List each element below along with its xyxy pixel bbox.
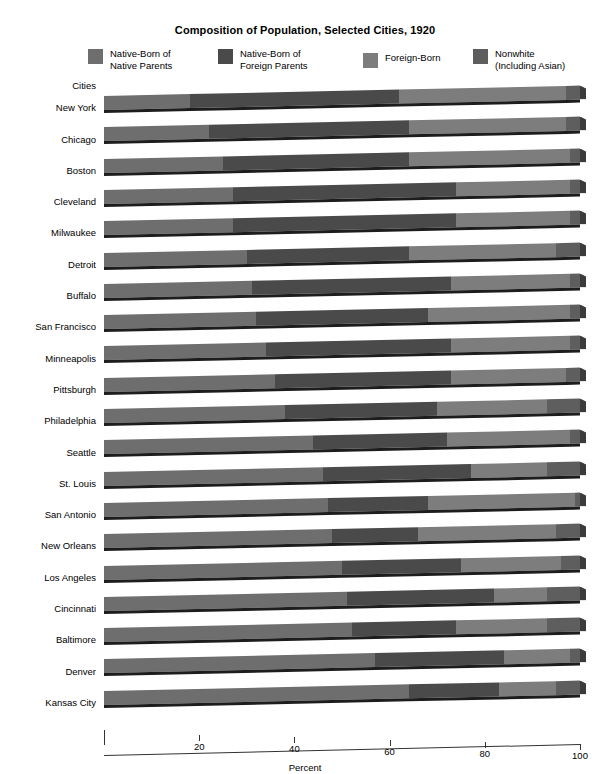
bar-segment[interactable] [494,587,546,602]
bar-segment-shadow [566,100,580,103]
bar-segment-shadow [547,413,580,417]
bar-segment[interactable] [547,586,580,601]
bar-segment-shadow [547,600,580,604]
stacked-bar[interactable] [104,346,584,368]
plot-area: Cities New YorkChicagoBostonClevelandMil… [0,80,610,740]
bar-segment[interactable] [561,555,580,569]
bar-segment[interactable] [547,618,580,633]
bar-category-label: Chicago [0,134,96,146]
bar-segment[interactable] [570,430,580,444]
legend-swatch-icon [218,49,233,64]
bar-category-label: Buffalo [0,290,96,302]
bar-category-label: New Orleans [0,540,96,552]
stacked-bar[interactable] [104,190,584,212]
bar-segment[interactable] [566,86,580,100]
bar-segment-shadow [566,131,580,134]
stacked-bar[interactable] [104,253,584,275]
legend-item-native-born-native-parents: Native-Born of Native Parents [88,48,172,71]
legend-swatch-icon [473,49,488,64]
stacked-bar[interactable] [104,221,584,243]
bar-category-label: Denver [0,666,96,678]
bar-segment-shadow [547,475,580,479]
x-axis-tick-label: 20 [194,741,205,752]
legend-item-label: Native-Born of Native Parents [110,48,172,71]
bar-segment-shadow [556,256,580,260]
x-axis-title: Percent [0,762,610,773]
stacked-bar[interactable] [104,315,584,337]
bar-segment[interactable] [570,148,580,162]
bar-segment[interactable] [556,242,580,257]
bar-category-label: New York [0,102,96,114]
bar-segment-shadow [570,319,580,322]
bar-body [104,86,584,113]
bar-segment[interactable] [570,336,580,350]
bar-segment-shadow [332,541,418,546]
legend-item-label: Native-Born of Foreign Parents [240,48,308,71]
stacked-bar[interactable] [104,96,584,118]
bar-segment-shadow [499,695,556,699]
bar-segment[interactable] [570,305,580,319]
stacked-bar[interactable] [104,472,584,494]
x-axis-tick-label: 40 [289,743,300,754]
stacked-bar[interactable] [104,534,584,556]
stacked-bar[interactable] [104,659,584,681]
bar-segment[interactable] [556,680,580,695]
stacked-bar[interactable] [104,284,584,306]
stacked-bar[interactable] [104,440,584,462]
stacked-bar[interactable] [104,691,584,713]
stacked-bar[interactable] [104,409,584,431]
bar-category-label: Philadelphia [0,415,96,427]
x-axis-line [104,744,580,756]
bar-category-label: Cleveland [0,196,96,208]
bar-segment[interactable] [570,180,580,194]
bar-end-cap [580,85,586,99]
bar-row[interactable]: Kansas City [0,691,610,717]
stacked-bar[interactable] [104,127,584,149]
bar-category-label: San Francisco [0,321,96,333]
bar-segment[interactable] [575,493,580,507]
bar-segment[interactable] [547,399,580,414]
bar-segment-shadow [504,663,571,667]
bar-segment-shadow [104,139,209,144]
bar-segment-shadow [570,287,580,290]
bar-category-label: Seattle [0,447,96,459]
bar-category-label: Cincinnati [0,603,96,615]
bar-segment[interactable] [570,273,580,287]
bar-segment[interactable] [570,211,580,225]
bar-segment[interactable] [499,681,556,696]
stacked-bar[interactable] [104,597,584,619]
bar-segment-shadow [570,444,580,447]
bar-segment[interactable] [566,367,580,381]
legend-swatch-icon [363,53,378,68]
stacked-bar[interactable] [104,566,584,588]
bar-category-label: Los Angeles [0,572,96,584]
bar-segment[interactable] [570,649,580,663]
bar-segment-shadow [570,194,580,197]
x-axis: 20406080100 Percent [0,740,610,774]
bar-segment[interactable] [471,462,547,478]
bar-segment-shadow [547,632,580,636]
bar-segment-shadow [566,381,580,384]
stacked-bar[interactable] [104,628,584,650]
bar-category-label: Pittsburgh [0,384,96,396]
bar-segment-shadow [494,601,546,605]
y-axis-title: Cities [0,80,96,91]
stacked-bar[interactable] [104,159,584,181]
legend-item-label: Foreign-Born [385,52,440,64]
legend-item-nonwhite: Nonwhite (Including Asian) [473,48,565,71]
x-axis-tick-label: 100 [572,750,588,761]
bar-category-label: San Antonio [0,509,96,521]
bar-segment[interactable] [409,682,499,698]
bar-segment[interactable] [566,117,580,131]
bar-segment[interactable] [556,524,580,539]
stacked-bar[interactable] [104,503,584,525]
bar-category-label: St. Louis [0,478,96,490]
legend-item-foreign-born: Foreign-Born [363,52,440,68]
y-axis-line [104,730,105,745]
bar-category-label: Baltimore [0,634,96,646]
bar-segment-shadow [556,694,580,698]
bar-segment[interactable] [461,556,561,572]
bar-segment[interactable] [547,461,580,476]
stacked-bar[interactable] [104,378,584,400]
bar-category-label: Detroit [0,259,96,271]
